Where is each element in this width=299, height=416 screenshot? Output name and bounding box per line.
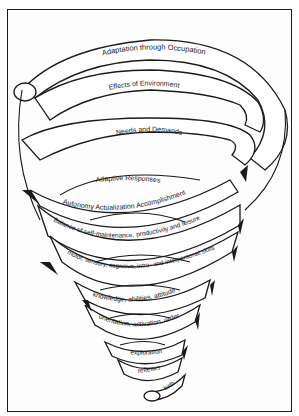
shade-right: [210, 280, 215, 296]
label-adaptive: Adaptive Responses: [95, 174, 161, 183]
ring-needs: [22, 118, 255, 165]
shade-left: [40, 262, 58, 275]
spiral-start-loop: [14, 83, 36, 101]
spiral-diagram: Adaptation through Occupation Effects of…: [0, 0, 299, 416]
spiral-end-loop: [144, 391, 160, 401]
shade-right: [240, 165, 248, 182]
